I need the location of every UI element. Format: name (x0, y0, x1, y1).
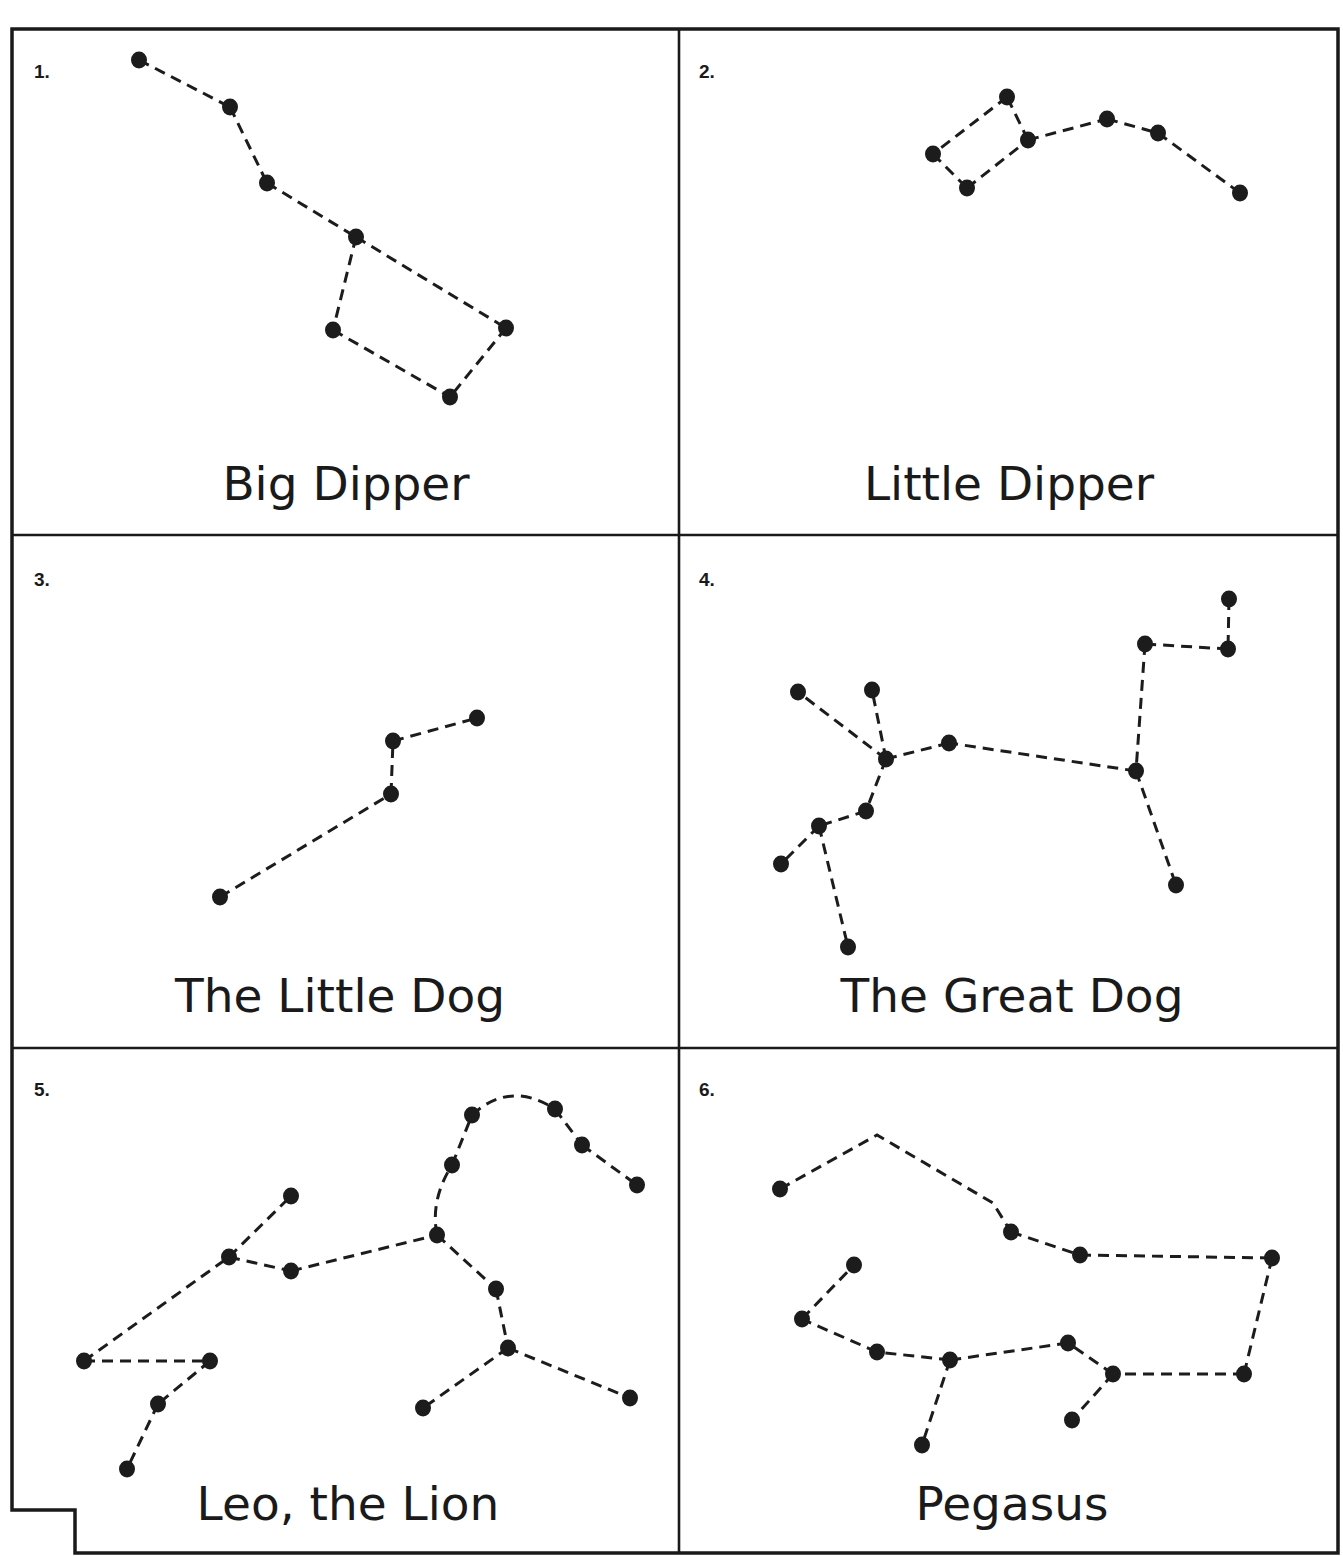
star-dot-icon (574, 1137, 590, 1154)
dashed-connector (333, 330, 450, 397)
dashed-connector (1136, 644, 1145, 771)
panel-number: 2. (699, 61, 715, 82)
dashed-connector (1145, 644, 1228, 649)
star-dot-icon (202, 1353, 218, 1370)
star-dot-icon (1150, 125, 1166, 142)
panel-leo-the-lion: 5.Leo, the Lion (34, 1079, 645, 1531)
star-dot-icon (1220, 641, 1236, 658)
star-dot-icon (846, 1257, 862, 1274)
dashed-polyline-connector (780, 1135, 1011, 1232)
star-dot-icon (858, 803, 874, 820)
dashed-curve-connector (472, 1096, 555, 1115)
constellation-lines (84, 1096, 637, 1469)
dashed-connector (933, 97, 1007, 154)
star-dot-icon (283, 1188, 299, 1205)
star-dot-icon (348, 229, 364, 246)
dashed-connector (1068, 1343, 1113, 1374)
dashed-connector (158, 1361, 210, 1404)
dashed-connector (333, 237, 356, 330)
star-dot-icon (811, 818, 827, 835)
dashed-connector (84, 1257, 229, 1361)
dashed-connector (1158, 133, 1240, 193)
star-dot-icon (794, 1311, 810, 1328)
star-dot-icon (500, 1340, 516, 1357)
star-dot-icon (914, 1437, 930, 1454)
dashed-connector (877, 1352, 950, 1360)
star-dot-icon (1236, 1366, 1252, 1383)
dashed-connector (1028, 119, 1107, 140)
star-dot-icon (1064, 1412, 1080, 1429)
dashed-connector (1072, 1374, 1113, 1420)
dashed-connector (437, 1235, 496, 1289)
star-dot-icon (864, 682, 880, 699)
constellation-name: Pegasus (916, 1476, 1109, 1531)
dashed-connector (802, 1319, 877, 1352)
star-dot-icon (131, 52, 147, 69)
star-dot-icon (773, 856, 789, 873)
dashed-connector (508, 1348, 630, 1398)
dashed-connector (1136, 771, 1176, 885)
panel-number: 1. (34, 61, 50, 82)
star-dot-icon (869, 1344, 885, 1361)
constellation-panels: 1.Big Dipper2.Little Dipper3.The Little … (34, 52, 1280, 1532)
star-dot-icon (925, 146, 941, 163)
dashed-connector (802, 1265, 854, 1319)
dashed-connector (798, 692, 886, 759)
dashed-connector (267, 183, 356, 237)
constellation-lines (933, 97, 1240, 193)
star-dot-icon (442, 389, 458, 406)
constellation-name: Big Dipper (222, 456, 470, 511)
star-dot-icon (1060, 1335, 1076, 1352)
panel-number: 6. (699, 1079, 715, 1100)
panel-number: 3. (34, 569, 50, 590)
star-dot-icon (498, 320, 514, 337)
star-dot-icon (415, 1400, 431, 1417)
star-dot-icon (547, 1101, 563, 1118)
star-dot-icon (1232, 185, 1248, 202)
star-dot-icon (622, 1390, 638, 1407)
dashed-connector (291, 1235, 437, 1271)
star-dot-icon (1221, 591, 1237, 608)
dashed-connector (230, 107, 267, 183)
dashed-connector (220, 794, 391, 897)
constellation-lines (781, 599, 1229, 947)
star-dot-icon (221, 1249, 237, 1266)
panel-number: 5. (34, 1079, 50, 1100)
dashed-connector (127, 1404, 158, 1469)
dashed-connector (139, 60, 230, 107)
constellation-name: Little Dipper (864, 456, 1155, 511)
dashed-connector (393, 718, 477, 741)
star-dot-icon (1137, 636, 1153, 653)
panel-the-great-dog: 4.The Great Dog (699, 569, 1237, 1023)
dashed-connector (582, 1145, 637, 1185)
star-dot-icon (325, 322, 341, 339)
panel-pegasus: 6.Pegasus (699, 1079, 1280, 1531)
star-dot-icon (385, 733, 401, 750)
dashed-connector (819, 826, 848, 947)
panel-the-little-dog: 3.The Little Dog (34, 569, 505, 1023)
panel-little-dipper: 2.Little Dipper (699, 61, 1248, 511)
star-dot-icon (150, 1396, 166, 1413)
star-dot-icon (464, 1107, 480, 1124)
star-dot-icon (1072, 1247, 1088, 1264)
outer-border (12, 29, 1338, 1553)
panel-number: 4. (699, 569, 715, 590)
stars (76, 1101, 645, 1478)
constellation-name: Leo, the Lion (197, 1476, 500, 1531)
stars (772, 1181, 1280, 1454)
star-dot-icon (212, 889, 228, 906)
constellation-lines (139, 60, 506, 397)
star-dot-icon (259, 175, 275, 192)
star-dot-icon (790, 684, 806, 701)
star-dot-icon (942, 1352, 958, 1369)
dashed-connector (872, 690, 886, 759)
constellation-worksheet: 1.Big Dipper2.Little Dipper3.The Little … (0, 0, 1343, 1556)
dashed-connector (356, 237, 506, 328)
dashed-connector (1080, 1255, 1272, 1258)
star-dot-icon (76, 1353, 92, 1370)
star-dot-icon (283, 1263, 299, 1280)
star-dot-icon (444, 1157, 460, 1174)
dashed-connector (922, 1360, 950, 1445)
star-dot-icon (429, 1227, 445, 1244)
star-dot-icon (959, 180, 975, 197)
